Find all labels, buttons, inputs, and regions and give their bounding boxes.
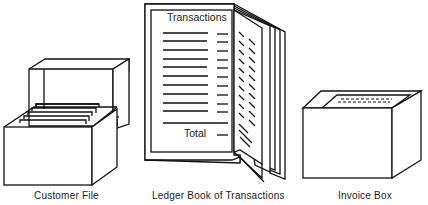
customer-file-label: Customer File <box>34 190 99 201</box>
customer-file-box-icon <box>4 59 129 185</box>
invoice-box-icon <box>303 91 421 178</box>
ledger-book-icon <box>145 4 285 182</box>
ledger-book-label: Ledger Book of Transactions <box>152 190 285 201</box>
ledger-heading: Transactions <box>167 11 227 23</box>
diagram-canvas <box>0 0 428 205</box>
ledger-total-label: Total <box>184 127 206 139</box>
invoice-box-label: Invoice Box <box>338 190 392 201</box>
